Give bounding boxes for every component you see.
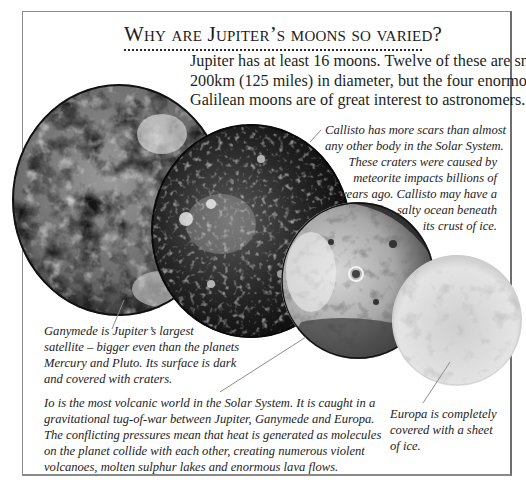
intro-paragraph: Jupiter has at least 16 moons. Twelve of… [190,52,508,111]
caption-line: of ice. [390,438,500,454]
caption-line: covered with a sheet [390,422,500,438]
io-caption: Io is the most volcanic world in the Sol… [44,395,364,475]
intro-line: 200km (125 miles) in diameter, but the f… [190,72,508,92]
intro-line: Galilean moons are of great interest to … [190,91,508,111]
ganymede-caption: Ganymede is Jupiter’s largest satellite … [44,323,244,387]
caption-line: These craters were caused by [325,154,497,170]
page-title: Why are Jupiter’s moons so varied? [124,22,424,46]
caption-line: gravitational tug-of-war between Jupiter… [44,411,364,427]
caption-line: volcanoes, molten sulphur lakes and enor… [44,459,364,475]
caption-line: Europa is completely [390,406,500,422]
caption-line: meteorite impacts billions of [325,170,497,186]
europa-caption: Europa is completely covered with a shee… [390,406,500,454]
intro-line: Jupiter has at least 16 moons. Twelve of… [190,52,508,72]
europa-image [392,255,522,386]
caption-line: years ago. Callisto may have a [325,186,497,202]
europa-surface-icon [392,255,522,386]
caption-line: on the planet collide with each other, c… [44,443,364,459]
callisto-caption: Callisto has more scars than almost any … [325,122,497,234]
caption-line: salty ocean beneath [325,202,497,218]
caption-line: Mercury and Pluto. Its surface is dark [44,355,244,371]
caption-line: Ganymede is Jupiter’s largest [44,323,244,339]
caption-line: its crust of ice. [325,218,497,234]
caption-line: satellite – bigger even than the planets [44,339,244,355]
caption-line: any other body in the Solar System. [325,138,497,154]
caption-line: Io is the most volcanic world in the Sol… [44,395,364,411]
dotted-underline [124,49,422,51]
caption-line: Callisto has more scars than almost [325,122,497,138]
caption-line: and covered with craters. [44,371,244,387]
caption-line: The conflicting pressures mean that heat… [44,427,364,443]
